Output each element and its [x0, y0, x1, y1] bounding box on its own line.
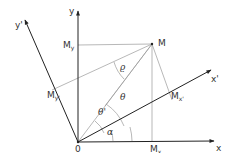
mx-label-main: M — [150, 144, 158, 153]
x-prime-axis-label: x' — [211, 75, 219, 84]
y-axis-label: y — [69, 7, 74, 16]
theta-prime-label: θ' — [98, 108, 106, 117]
point-m-label: M — [158, 39, 166, 48]
arc-theta-prime — [95, 121, 104, 133]
theta-label: θ — [120, 93, 125, 102]
myp-label: My' — [47, 91, 60, 101]
myp-label-sub: y' — [55, 94, 60, 101]
point-m-dot — [151, 43, 153, 45]
arc-theta — [106, 104, 124, 126]
x-prime-axis — [78, 70, 211, 142]
mxp-label-main: M — [171, 91, 179, 101]
mxp-label: Mx' — [171, 92, 184, 102]
line-m-to-my — [78, 44, 152, 45]
line-m-to-mxp — [152, 44, 172, 100]
x-axis-label: x — [216, 144, 221, 153]
x-axis — [78, 141, 214, 142]
origin-dot — [77, 141, 79, 143]
rho-label: ϱ — [120, 63, 125, 72]
myp-label-main: M — [47, 90, 55, 100]
my-label-sub: y — [71, 44, 75, 51]
alpha-label: α — [107, 128, 113, 137]
y-prime-axis-label: y' — [15, 21, 23, 30]
my-label-main: M — [63, 40, 71, 50]
mxp-label-sub: x' — [179, 95, 184, 102]
my-label: My — [63, 41, 74, 51]
axes — [25, 11, 214, 142]
origin-label: 0 — [75, 145, 81, 153]
mx-label-sub: x — [158, 148, 162, 153]
y-prime-axis — [25, 20, 78, 142]
arc-theta-outer — [130, 127, 132, 141]
angle-arcs — [95, 62, 132, 141]
line-rho-ray — [105, 44, 152, 106]
rotation-diagram — [0, 0, 232, 153]
mx-label: Mx — [150, 145, 161, 153]
